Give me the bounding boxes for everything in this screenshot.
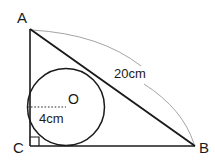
- geometry-figure: A B C O 4cm 20cm: [0, 0, 215, 165]
- vertex-label-c: C: [13, 139, 24, 156]
- triangle-side-ab-hypotenuse: [30, 29, 195, 146]
- hypotenuse-measurement-label: 20cm: [114, 66, 146, 81]
- circle-center-label-o: O: [68, 91, 79, 107]
- geometry-canvas: A B C O 4cm 20cm: [0, 0, 215, 165]
- right-angle-marker: [30, 137, 39, 146]
- hypotenuse-arc-upper: [32, 30, 141, 66]
- vertex-label-b: B: [199, 139, 209, 156]
- radius-measurement-label: 4cm: [39, 111, 64, 126]
- vertex-label-a: A: [17, 9, 27, 26]
